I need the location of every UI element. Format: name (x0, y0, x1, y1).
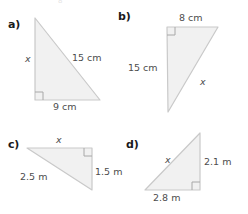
figure-a-label-vertical: x (25, 53, 31, 64)
figure-d-triangle (120, 128, 248, 214)
figure-a-triangle (0, 0, 124, 110)
figure-c: c) x 1.5 m 2.5 m (0, 128, 124, 214)
figure-b: b) 8 cm 15 cm x (112, 0, 248, 122)
figure-d-label-base: 2.8 m (153, 192, 180, 203)
figure-d-label-hypotenuse: x (165, 154, 171, 165)
figure-c-label-top: x (56, 134, 62, 145)
figure-c-label-vertical: 1.5 m (95, 166, 122, 177)
figure-d: d) x 2.1 m 2.8 m (120, 128, 248, 214)
figure-d-label-vertical: 2.1 m (204, 156, 231, 167)
worksheet-figure-panel: 8 a) x 15 cm 9 cm b) 8 cm 15 cm x c) x 1… (0, 0, 248, 214)
figure-a-label-hypotenuse: 15 cm (72, 52, 102, 63)
figure-b-label-vertical: 15 cm (128, 62, 158, 73)
figure-a: a) x 15 cm 9 cm (0, 0, 124, 110)
figure-b-label-hypotenuse: x (200, 76, 206, 87)
figure-c-label-hypotenuse: 2.5 m (20, 171, 47, 182)
figure-a-label-base: 9 cm (53, 101, 77, 112)
figure-b-label-top: 8 cm (179, 12, 203, 23)
